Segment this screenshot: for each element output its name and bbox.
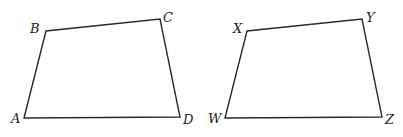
vertex-label-b: B (29, 21, 40, 36)
quadrilateral-wxyz-outline (225, 19, 382, 118)
quadrilateral-wxyz: W X Y Z (208, 10, 395, 127)
vertex-label-z: Z (384, 112, 395, 127)
vertex-label-w: W (208, 111, 223, 126)
vertex-label-c: C (163, 10, 173, 25)
quadrilateral-abcd-outline (24, 19, 180, 118)
vertex-label-d: D (182, 112, 194, 127)
quadrilateral-abcd: A B C D (10, 10, 194, 127)
diagram-canvas: A B C D W X Y Z (0, 0, 403, 137)
vertex-label-x: X (232, 21, 243, 36)
vertex-label-y: Y (366, 10, 376, 25)
vertex-label-a: A (10, 111, 20, 126)
